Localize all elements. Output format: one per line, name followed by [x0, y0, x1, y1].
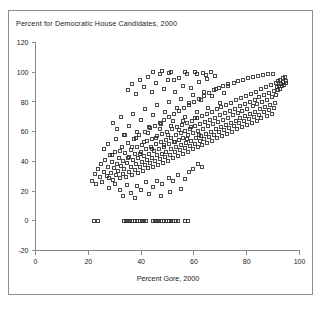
- data-point: [169, 219, 172, 222]
- data-point: [191, 167, 194, 170]
- data-point: [245, 123, 248, 126]
- data-point: [137, 157, 140, 160]
- x-axis-title: Percent Gore, 2000: [137, 274, 200, 283]
- data-point: [118, 149, 121, 152]
- data-point: [100, 162, 103, 165]
- data-point: [248, 100, 251, 103]
- data-point: [178, 149, 181, 152]
- data-point: [112, 178, 115, 181]
- data-point: [198, 80, 201, 83]
- data-point: [259, 108, 262, 111]
- data-point: [98, 176, 101, 179]
- data-point: [135, 146, 138, 149]
- data-point: [151, 219, 154, 222]
- data-point: [104, 158, 107, 161]
- data-point: [223, 92, 226, 95]
- data-point: [183, 219, 186, 222]
- x-axis-tick-label: 0: [34, 258, 38, 265]
- data-point: [110, 172, 113, 175]
- data-point: [101, 181, 104, 184]
- data-point: [188, 144, 191, 147]
- data-point: [190, 139, 193, 142]
- data-point: [223, 129, 226, 132]
- data-point: [266, 98, 269, 101]
- data-point: [191, 93, 194, 96]
- data-point: [221, 118, 224, 121]
- data-point: [187, 219, 190, 222]
- data-point: [134, 92, 137, 95]
- data-point: [249, 92, 252, 95]
- data-point: [238, 122, 241, 125]
- data-point: [118, 176, 121, 179]
- data-point: [192, 132, 195, 135]
- data-point: [254, 90, 257, 93]
- data-point: [231, 114, 234, 117]
- data-point: [159, 195, 162, 198]
- data-point: [187, 134, 190, 137]
- data-point: [213, 133, 216, 136]
- data-point: [181, 123, 184, 126]
- data-point: [239, 117, 242, 120]
- data-point: [203, 138, 206, 141]
- data-point: [199, 123, 202, 126]
- data-point: [123, 168, 126, 171]
- data-point: [151, 71, 154, 74]
- data-point: [181, 152, 184, 155]
- data-point: [268, 103, 271, 106]
- data-point: [126, 162, 129, 165]
- data-point: [112, 121, 115, 124]
- data-point: [170, 148, 173, 151]
- data-point: [192, 100, 195, 103]
- data-point: [221, 135, 224, 138]
- data-point: [111, 161, 114, 164]
- data-point: [116, 127, 119, 130]
- data-point: [157, 163, 160, 166]
- data-point: [206, 141, 209, 144]
- data-point: [224, 123, 227, 126]
- data-point: [216, 120, 219, 123]
- data-point: [182, 120, 185, 123]
- x-axis-tick-label: 80: [243, 258, 251, 265]
- data-point: [139, 166, 142, 169]
- data-point: [140, 118, 143, 121]
- data-point: [132, 112, 135, 115]
- data-point: [128, 124, 131, 127]
- data-point: [116, 170, 119, 173]
- data-point: [195, 137, 198, 140]
- data-point: [246, 107, 249, 110]
- data-point: [256, 103, 259, 106]
- data-point: [271, 96, 274, 99]
- data-point: [220, 106, 223, 109]
- data-point: [264, 86, 267, 89]
- data-point: [226, 132, 229, 135]
- data-point: [173, 151, 176, 154]
- data-point: [166, 79, 169, 82]
- data-point: [273, 101, 276, 104]
- data-point: [113, 182, 116, 185]
- data-point: [195, 111, 198, 114]
- data-point: [167, 159, 170, 162]
- data-point: [178, 77, 181, 80]
- data-point: [202, 94, 205, 97]
- data-point: [187, 170, 190, 173]
- data-point: [158, 127, 161, 130]
- data-point: [142, 169, 145, 172]
- data-points-group: [91, 69, 288, 222]
- data-point: [245, 94, 248, 97]
- data-point: [262, 74, 265, 77]
- data-point: [153, 124, 156, 127]
- y-axis-tick-label: 120: [17, 39, 29, 46]
- data-point: [159, 158, 162, 161]
- data-point: [225, 103, 228, 106]
- data-point: [124, 152, 127, 155]
- data-point: [253, 98, 256, 101]
- data-point: [140, 219, 143, 222]
- data-point: [93, 173, 96, 176]
- data-point: [215, 108, 218, 111]
- data-point: [257, 113, 260, 116]
- data-point: [267, 109, 270, 112]
- data-point: [108, 187, 111, 190]
- data-point: [118, 189, 121, 192]
- data-point: [183, 115, 186, 118]
- data-point: [145, 181, 148, 184]
